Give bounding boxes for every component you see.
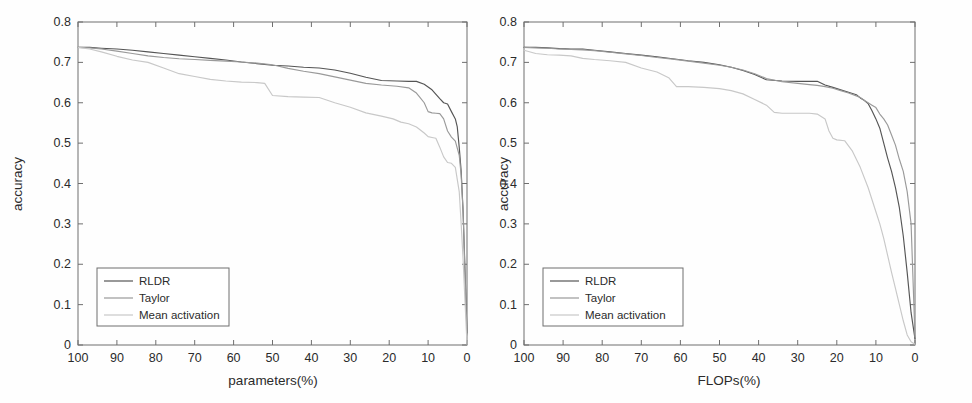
x-tick-label: 20 [382,351,396,365]
y-tick-label: 0.3 [54,217,71,231]
y-tick-label: 0.2 [54,257,71,271]
x-tick-label: 0 [464,351,471,365]
y-tick-label: 0.1 [54,298,71,312]
y-tick-label: 0.5 [500,136,517,150]
y-tick-label: 0.3 [500,217,517,231]
legend-label-mean-activation: Mean activation [585,309,666,321]
x-tick-label: 60 [673,351,687,365]
x-axis-title: parameters(%) [228,373,317,388]
plot-svg-parameters: 100908070605040302010000.10.20.30.40.50.… [0,0,486,403]
legend-label-rldr: RLDR [139,275,170,287]
x-tick-label: 10 [421,351,435,365]
y-tick-label: 0.8 [54,15,71,29]
x-tick-label: 40 [304,351,318,365]
x-tick-label: 80 [149,351,163,365]
x-tick-label: 30 [343,351,357,365]
x-tick-label: 20 [830,351,844,365]
x-tick-label: 100 [68,351,89,365]
legend-label-taylor: Taylor [585,292,616,304]
x-tick-label: 30 [791,351,805,365]
y-tick-label: 0.2 [500,257,517,271]
x-tick-label: 80 [595,351,609,365]
x-tick-label: 10 [869,351,883,365]
y-axis-title: accuracy [496,157,511,211]
y-tick-label: 0.5 [54,136,71,150]
y-tick-label: 0.7 [54,55,71,69]
x-tick-label: 40 [752,351,766,365]
x-tick-label: 0 [912,351,919,365]
x-tick-label: 90 [556,351,570,365]
y-tick-label: 0.8 [500,15,517,29]
y-tick-label: 0.4 [54,177,71,191]
x-tick-label: 70 [634,351,648,365]
x-tick-label: 60 [227,351,241,365]
x-tick-label: 50 [266,351,280,365]
x-axis-title: FLOPs(%) [697,373,760,388]
plot-svg-flops: 100908070605040302010000.10.20.30.40.50.… [486,0,972,403]
y-tick-label: 0.1 [500,298,517,312]
chart-panel-flops: 100908070605040302010000.10.20.30.40.50.… [486,0,972,403]
y-tick-label: 0.6 [54,96,71,110]
x-tick-label: 70 [188,351,202,365]
x-tick-label: 90 [110,351,124,365]
y-tick-label: 0.6 [500,96,517,110]
legend-label-mean-activation: Mean activation [139,309,220,321]
chart-panel-parameters: 100908070605040302010000.10.20.30.40.50.… [0,0,486,403]
x-tick-label: 100 [514,351,535,365]
x-tick-label: 50 [713,351,727,365]
legend-label-rldr: RLDR [585,275,616,287]
figure-container: 100908070605040302010000.10.20.30.40.50.… [0,0,972,403]
y-tick-label: 0 [510,338,517,352]
y-axis-title: accuracy [10,157,25,211]
y-tick-label: 0 [64,338,71,352]
y-tick-label: 0.7 [500,55,517,69]
legend-label-taylor: Taylor [139,292,170,304]
